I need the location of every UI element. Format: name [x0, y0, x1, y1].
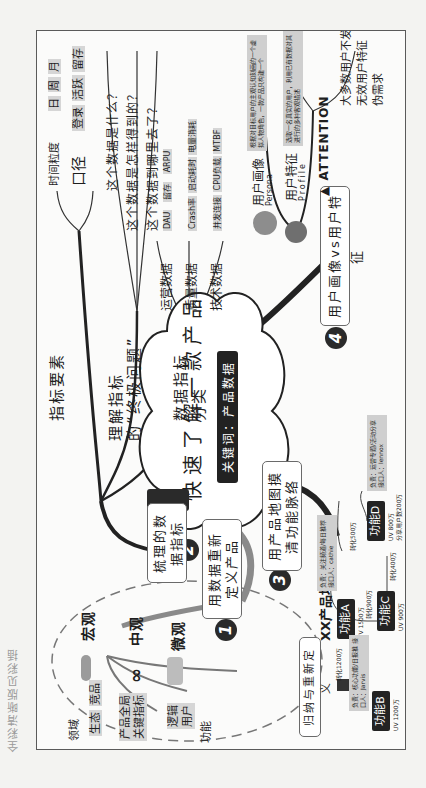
mind-map-frame: 快速了解一款产品 关键词：产品数据 1 用数据重新定义产品 宏观 生态 竞品 领… — [36, 30, 406, 750]
macro-item-ecosystem: 生态 — [89, 710, 102, 736]
persona-avatar-icon — [253, 211, 277, 235]
level-macro: 宏观 — [77, 611, 97, 641]
caliber-active: 活跃 — [72, 76, 85, 102]
macro-item-competitor: 竞品 — [89, 681, 102, 707]
profile-en: Profile — [298, 162, 307, 201]
node-d-note: 负责：运营专题/活动分享 接口人：lennox — [367, 415, 387, 491]
meso-item-global: 产品全局 — [119, 693, 133, 741]
profile-label: 用户特征 — [282, 153, 299, 201]
branch-4-box[interactable]: 用户画像vs用户特征 — [320, 186, 350, 326]
question-1: 这个数据是什么？ — [103, 87, 120, 191]
badge-4: 4 — [325, 327, 347, 349]
quality-data: 质量数据 — [182, 263, 199, 311]
badge-3: 3 — [269, 569, 291, 591]
branch-1-box[interactable]: 用数据重新定义产品 — [202, 519, 242, 619]
node-function-a[interactable]: 功能A — [337, 599, 355, 639]
edge-c-d: 转化400万 — [389, 552, 397, 581]
tech-data: 技术数据 — [207, 263, 224, 311]
metric-startup: 启动耗时 — [188, 157, 197, 193]
warning-icon: ▲ — [317, 186, 331, 196]
tech-values: 并发连接 CPU负载 MTBF — [211, 128, 222, 231]
meso-items: 产品全局 关键指标 — [119, 693, 147, 741]
node-b-uv: UV 1200万 — [392, 699, 400, 731]
node-d-uv: UV 800万 — [387, 513, 395, 541]
meso-item-kpi: 关键指标 — [133, 693, 147, 741]
caliber-retention: 留存 — [72, 46, 85, 72]
branch-3-box[interactable]: 用产品地图摸清功能脉络 — [262, 461, 302, 571]
metric-dau: DAU — [163, 210, 172, 231]
quality-values: Crash率 启动耗时 电量消耗 — [186, 119, 197, 231]
indicator-elements: 指标要素 — [45, 353, 66, 421]
data-classification: 数据指标分类 — [172, 341, 208, 421]
node-d-extra: 分享用户数200万 — [395, 494, 403, 541]
time-month: 月 — [48, 59, 61, 74]
metric-crash: Crash率 — [188, 196, 197, 231]
glasses-icon: ∞ — [125, 668, 146, 683]
node-function-b[interactable]: 功能B — [372, 691, 390, 731]
metric-retention: 留存 — [163, 182, 172, 202]
time-day: 日 — [48, 96, 61, 111]
ops-data: 运营数据 — [157, 263, 174, 311]
macro-item-domain: 领域 — [65, 719, 81, 741]
attention-label: ▲ ATTENTION — [317, 95, 331, 196]
edge-a-b: 转化1200万 — [335, 648, 343, 681]
branch-2-box[interactable]: 梳理的数据指标 — [147, 503, 187, 583]
node-c-note: 负责：核心功能/日报推 接口人：Jarvis — [349, 635, 369, 711]
time-week: 周 — [48, 78, 61, 93]
badge-1: 1 — [215, 619, 237, 641]
metric-battery: 电量消耗 — [188, 119, 197, 155]
ultimate-question: 理解指标的“终极问题” — [107, 331, 143, 441]
side-note: 全彩清晰版见彩插 — [6, 648, 22, 752]
mind-map-canvas: 快速了解一款产品 关键词：产品数据 1 用数据重新定义产品 宏观 生态 竞品 领… — [37, 31, 406, 750]
edge-a-c: 转化900万 — [365, 590, 373, 619]
micro-item-user: 用户 — [181, 703, 195, 729]
attention-item-3: 伪需求 — [369, 73, 385, 106]
persona-en: Persona — [265, 174, 274, 206]
node-c-uv: UV 900万 — [397, 603, 405, 631]
node-a-note: 负责：关注频道/每日推荐 接口人：cathie — [317, 515, 337, 591]
macro-items: 生态 竞品 — [89, 681, 103, 737]
micro-item-logic: 逻辑 — [167, 703, 181, 729]
ops-values: DAU 留存 ARPU — [161, 149, 172, 231]
caliber-login: 登录 — [72, 105, 85, 131]
metric-concurrency: 并发连接 — [213, 195, 222, 231]
metric-mtbf: MTBF — [213, 128, 222, 154]
persona-label: 用户画像 — [249, 158, 266, 206]
persona-desc: 根据对目标用户的主观认知刻画的一个虚拟人物角色，一款产品只构建一个 — [247, 35, 267, 151]
attention-item-2: 无效用户特征 — [353, 40, 369, 106]
question-3: 这个数据到哪里去了？ — [143, 101, 160, 231]
microscope-icon — [167, 657, 183, 685]
micro-item-function: 功能 — [197, 721, 213, 743]
caliber: 口径 — [67, 156, 88, 186]
profile-desc: 选取一名真实的用户，利用已有数据对其进行的多种客观描述 — [283, 30, 303, 146]
level-micro: 微观 — [167, 621, 187, 651]
edge-a-d: 转化500万 — [349, 522, 357, 551]
level-meso: 中观 — [125, 616, 145, 646]
metric-arpu: ARPU — [163, 149, 172, 175]
center-subtitle: 关键词：产品数据 — [217, 351, 238, 483]
micro-items: 逻辑 用户 — [167, 703, 195, 729]
time-values: 日 周 月 — [45, 59, 61, 111]
metric-cpu: CPU负载 — [213, 156, 222, 192]
attention-item-1: 大多数用户不发声 — [337, 30, 353, 106]
attention-text: ATTENTION — [317, 95, 331, 180]
summary-box[interactable]: 归纳与重新定义 — [299, 637, 321, 737]
leg-icon — [81, 655, 91, 681]
time-granularity: 时间粒度 — [45, 142, 61, 186]
caliber-values: 登录 活跃 留存 — [69, 46, 85, 131]
node-function-d[interactable]: 功能D — [367, 501, 385, 541]
question-2: 这个数据是怎样得到的？ — [123, 88, 140, 231]
profile-avatar-icon — [285, 221, 307, 243]
node-function-c[interactable]: 功能C — [377, 591, 395, 631]
